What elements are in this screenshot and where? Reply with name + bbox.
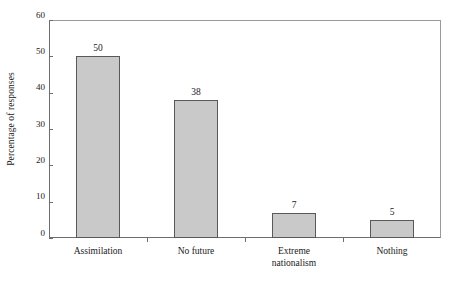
bar-chart: Percentage of responses 0102030405060 50… — [0, 0, 455, 285]
y-axis-tick-label: 50 — [36, 47, 49, 56]
bar — [272, 213, 316, 238]
x-axis-tick-mark — [343, 238, 344, 242]
x-axis-category-label: Assimilation — [49, 246, 147, 258]
x-axis-category-label: No future — [147, 246, 245, 258]
y-axis-tick-mark — [49, 202, 53, 203]
bar — [370, 220, 414, 238]
bar-value-label: 50 — [49, 43, 147, 53]
y-axis-title-text: Percentage of responses — [6, 72, 16, 166]
x-axis-tick-mark — [245, 238, 246, 242]
x-axis-category-label-line: Assimilation — [49, 246, 147, 258]
x-axis-category-label: Nothing — [343, 246, 441, 258]
y-axis-tick-label: 20 — [36, 156, 49, 165]
y-axis-title: Percentage of responses — [0, 0, 22, 238]
bar-value-label: 38 — [147, 87, 245, 97]
y-axis-tick-label: 60 — [36, 11, 49, 20]
y-axis-tick-label: 0 — [41, 229, 50, 238]
x-axis-category-label-line: No future — [147, 246, 245, 258]
x-axis-category-label-line: Extreme — [245, 246, 343, 258]
bar — [76, 56, 120, 238]
x-axis-category-label-line: Nothing — [343, 246, 441, 258]
y-axis-tick-mark — [49, 129, 53, 130]
bar — [174, 100, 218, 238]
y-axis-tick-label: 30 — [36, 120, 49, 129]
y-axis-tick-label: 40 — [36, 83, 49, 92]
y-axis-tick-mark — [49, 165, 53, 166]
y-axis-tick-label: 10 — [36, 192, 49, 201]
x-axis-category-label-line: nationalism — [245, 258, 343, 270]
y-axis-tick-mark — [49, 238, 53, 239]
bar-value-label: 5 — [343, 207, 441, 217]
y-axis-tick-mark — [49, 93, 53, 94]
x-axis-tick-mark — [147, 238, 148, 242]
y-axis-tick-mark — [49, 56, 53, 57]
bar-value-label: 7 — [245, 200, 343, 210]
y-axis-tick-mark — [49, 20, 53, 21]
x-axis-category-label: Extremenationalism — [245, 246, 343, 269]
